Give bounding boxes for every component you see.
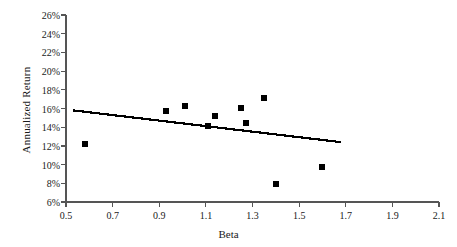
data-point <box>319 164 325 170</box>
data-point <box>82 141 88 147</box>
plot-area: 6%8%10%12%14%16%18%20%22%24%26% 0.50.70.… <box>0 0 457 247</box>
x-axis-tick-label: 2.1 <box>433 210 446 221</box>
data-point <box>212 113 218 119</box>
x-axis-tick-label: 0.5 <box>60 210 73 221</box>
y-axis-tick-label: 8% <box>22 178 60 189</box>
y-axis-tick-label: 20% <box>22 66 60 77</box>
x-axis-tick-label: 0.9 <box>153 210 166 221</box>
y-axis-tick-label: 22% <box>22 47 60 58</box>
data-point <box>273 181 279 187</box>
x-axis-tick-label: 1.1 <box>200 210 213 221</box>
x-axis-tick-label: 1.7 <box>340 210 353 221</box>
x-axis-tick-label: 0.7 <box>106 210 119 221</box>
scatter-chart: Annualized Return Beta 6%8%10%12%14%16%1… <box>0 0 457 247</box>
y-axis-tick-label: 26% <box>22 10 60 21</box>
data-point <box>163 108 169 114</box>
data-point <box>182 103 188 109</box>
x-axis-tick-label: 1.3 <box>246 210 259 221</box>
x-axis-tick-label: 1.5 <box>293 210 306 221</box>
y-axis-tick-label: 24% <box>22 28 60 39</box>
y-axis-tick-label: 6% <box>22 197 60 208</box>
y-axis-tick-label: 10% <box>22 159 60 170</box>
data-point <box>243 120 249 126</box>
x-axis-tick-label: 1.9 <box>386 210 399 221</box>
y-axis-tick-label: 16% <box>22 103 60 114</box>
y-axis-tick-label: 12% <box>22 140 60 151</box>
data-point <box>261 95 267 101</box>
y-axis-tick-label: 18% <box>22 84 60 95</box>
data-point <box>238 105 244 111</box>
axes <box>61 15 439 207</box>
y-axis-tick-label: 14% <box>22 122 60 133</box>
data-point <box>205 123 211 129</box>
